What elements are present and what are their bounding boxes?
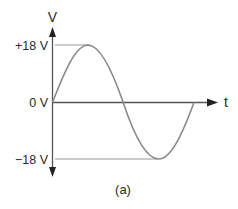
x-axis-label: t bbox=[224, 94, 228, 110]
level-label-zero: 0 V bbox=[29, 96, 48, 110]
up-arrow-icon bbox=[49, 27, 56, 37]
figure-caption: (a) bbox=[115, 182, 131, 197]
level-label-positive: +18 V bbox=[15, 39, 49, 53]
y-axis-label: V bbox=[48, 9, 58, 25]
sine-wave-diagram: V t +18 V 0 V −18 V (a) bbox=[0, 0, 238, 209]
right-arrow-icon bbox=[207, 99, 218, 107]
down-arrow-icon bbox=[49, 167, 56, 177]
level-label-negative: −18 V bbox=[15, 153, 49, 167]
